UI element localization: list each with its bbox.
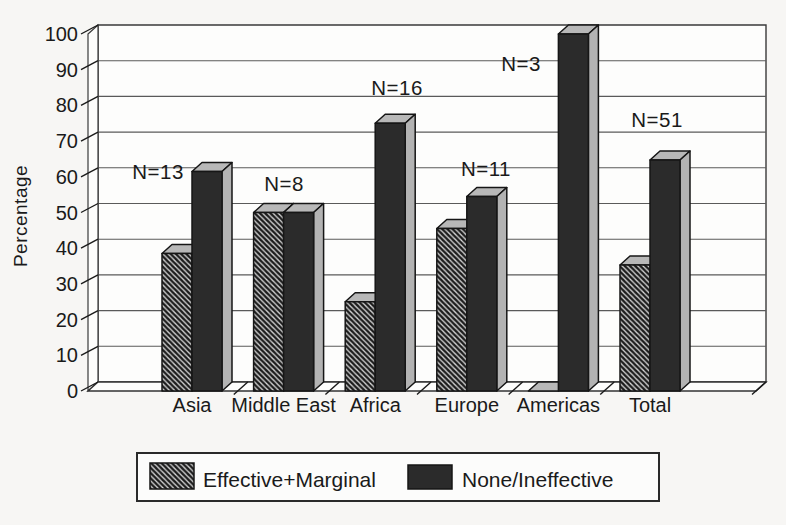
n-count-annotation: N=13 (132, 160, 184, 183)
category-label: Middle East (231, 394, 336, 416)
y-tick-label: 10 (56, 344, 78, 366)
y-tick-label: 40 (56, 237, 78, 259)
y-tick-label: 50 (56, 202, 78, 224)
category-label: Asia (173, 394, 213, 416)
y-tick-label: 30 (56, 273, 78, 295)
category-label: Africa (350, 394, 402, 416)
scanned-chart-figure: 0102030405060708090100AsiaMiddle EastAfr… (0, 0, 786, 525)
n-count-annotation: N=8 (264, 172, 304, 195)
category-label: Total (629, 394, 671, 416)
y-axis-title: Percentage (10, 165, 31, 267)
n-count-annotation: N=16 (371, 76, 423, 99)
plot-area: 0102030405060708090100AsiaMiddle EastAfr… (45, 23, 766, 416)
y-tick-label: 90 (56, 59, 78, 81)
y-tick-label: 20 (56, 309, 78, 331)
legend-swatch-hatched-icon (150, 463, 194, 489)
legend-label-effective-marginal: Effective+Marginal (203, 468, 376, 491)
category-label: Europe (435, 394, 500, 416)
y-tick-label: 0 (67, 380, 78, 402)
category-label: Americas (517, 394, 600, 416)
y-tick-label: 60 (56, 166, 78, 188)
legend-swatch-solid-icon (408, 465, 452, 489)
bar-chart: 0102030405060708090100AsiaMiddle EastAfr… (0, 0, 786, 525)
y-tick-label: 70 (56, 130, 78, 152)
n-count-annotation: N=11 (461, 157, 511, 180)
legend-label-none-ineffective: None/Ineffective (462, 468, 613, 491)
y-tick-label: 80 (56, 94, 78, 116)
legend: Effective+Marginal None/Ineffective (137, 453, 659, 501)
y-tick-label: 100 (45, 23, 78, 45)
n-count-annotation: N=51 (631, 108, 683, 131)
n-count-annotation: N=3 (501, 52, 541, 75)
